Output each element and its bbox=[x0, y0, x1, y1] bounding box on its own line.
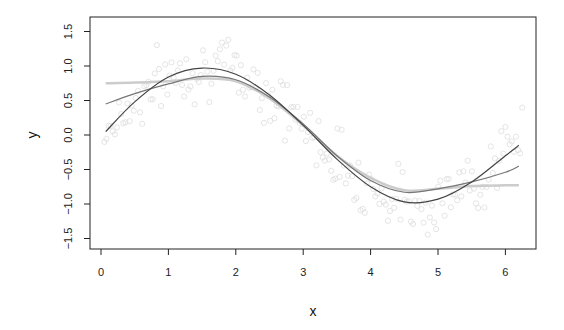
scatter-point bbox=[440, 201, 445, 206]
scatter-point bbox=[238, 63, 243, 68]
scatter-point bbox=[429, 203, 434, 208]
scatter-point bbox=[438, 178, 443, 183]
scatter-points bbox=[102, 37, 525, 237]
scatter-point bbox=[158, 103, 163, 108]
scatter-point bbox=[520, 105, 525, 110]
y-tick-label: 1.0 bbox=[62, 58, 74, 73]
scatter-point bbox=[242, 94, 247, 99]
scatter-point bbox=[282, 138, 287, 143]
scatter-point bbox=[203, 60, 208, 65]
scatter-point bbox=[255, 70, 260, 75]
scatter-point bbox=[169, 60, 174, 65]
scatter-point bbox=[221, 62, 226, 67]
scatter-point bbox=[427, 215, 432, 220]
x-tick-label: 4 bbox=[368, 266, 374, 278]
scatter-point bbox=[137, 110, 142, 115]
scatter-point bbox=[469, 169, 474, 174]
scatter-point bbox=[396, 161, 401, 166]
scatter-point bbox=[154, 43, 159, 48]
y-tick-label: 0.5 bbox=[62, 93, 74, 108]
scatter-point bbox=[465, 158, 470, 163]
scatter-point bbox=[192, 102, 197, 107]
scatter-point bbox=[482, 205, 487, 210]
y-tick-label: −1.5 bbox=[62, 228, 74, 250]
scatter-point bbox=[224, 43, 229, 48]
scatter-point bbox=[261, 120, 266, 125]
scatter-point bbox=[478, 192, 483, 197]
scatter-point bbox=[513, 134, 518, 139]
scatter-point bbox=[207, 100, 212, 105]
y-tick-label: 0.0 bbox=[62, 127, 74, 142]
x-tick-label: 5 bbox=[435, 266, 441, 278]
scatter-point bbox=[503, 124, 508, 129]
scatter-point bbox=[448, 205, 453, 210]
scatter-point bbox=[182, 94, 187, 99]
scatter-point bbox=[303, 138, 308, 143]
scatter-point bbox=[455, 198, 460, 203]
scatter-point bbox=[190, 71, 195, 76]
scatter-point bbox=[140, 121, 145, 126]
scatter-point bbox=[209, 81, 214, 86]
x-axis-title: x bbox=[310, 303, 317, 319]
scatter-point bbox=[398, 217, 403, 222]
scatter-point bbox=[434, 227, 439, 232]
scatter-point bbox=[385, 218, 390, 223]
scatter-point bbox=[184, 57, 189, 62]
y-axis-title: y bbox=[24, 132, 40, 139]
scatter-point bbox=[179, 82, 184, 87]
scatter-point bbox=[459, 194, 464, 199]
scatter-point bbox=[314, 163, 319, 168]
scatter-point bbox=[263, 81, 268, 86]
scatter-point bbox=[116, 100, 121, 105]
x-tick-label: 2 bbox=[233, 266, 239, 278]
scatter-point bbox=[215, 59, 220, 64]
scatter-point bbox=[165, 92, 170, 97]
scatter-point bbox=[131, 108, 136, 113]
scatter-point bbox=[356, 160, 361, 165]
scatter-point bbox=[488, 144, 493, 149]
scatter-point bbox=[499, 129, 504, 134]
scatter-point bbox=[270, 87, 275, 92]
scatter-point bbox=[316, 119, 321, 124]
scatter-point bbox=[419, 207, 424, 212]
scatter-point bbox=[226, 37, 231, 42]
scatter-point bbox=[272, 116, 277, 121]
scatter-point bbox=[287, 126, 292, 131]
scatter-point bbox=[308, 110, 313, 115]
y-tick-label: 1.5 bbox=[62, 24, 74, 39]
scatter-point bbox=[156, 66, 161, 71]
scatter-point bbox=[114, 125, 119, 130]
scatter-point bbox=[163, 62, 168, 67]
y-axis: −1.5−1.0−0.50.00.51.01.5 bbox=[62, 24, 90, 250]
scatter-point bbox=[421, 220, 426, 225]
scatter-point bbox=[476, 205, 481, 210]
x-tick-label: 1 bbox=[165, 266, 171, 278]
scatter-point bbox=[240, 87, 245, 92]
scatter-point bbox=[259, 96, 264, 101]
scatter-point bbox=[392, 205, 397, 210]
scatter-point bbox=[213, 53, 218, 58]
y-tick-label: −1.0 bbox=[62, 193, 74, 215]
scatter-point bbox=[205, 69, 210, 74]
scatter-point bbox=[431, 220, 436, 225]
scatter-point bbox=[152, 71, 157, 76]
scatter-point bbox=[505, 134, 510, 139]
scatter-point bbox=[257, 107, 262, 112]
x-tick-label: 3 bbox=[300, 266, 306, 278]
y-tick-label: −0.5 bbox=[62, 159, 74, 181]
chart: 0123456 −1.5−1.0−0.50.00.51.01.5 x y bbox=[0, 0, 564, 330]
x-tick-label: 6 bbox=[502, 266, 508, 278]
x-tick-label: 0 bbox=[98, 266, 104, 278]
x-axis: 0123456 bbox=[98, 249, 509, 278]
scatter-point bbox=[217, 47, 222, 52]
scatter-point bbox=[362, 210, 367, 215]
scatter-point bbox=[425, 232, 430, 237]
scatter-point bbox=[442, 213, 447, 218]
scatter-point bbox=[200, 48, 205, 53]
scatter-point bbox=[177, 61, 182, 66]
scatter-point bbox=[490, 170, 495, 175]
scatter-point bbox=[329, 168, 334, 173]
scatter-point bbox=[301, 114, 306, 119]
scatter-point bbox=[400, 170, 405, 175]
scatter-point bbox=[318, 150, 323, 155]
